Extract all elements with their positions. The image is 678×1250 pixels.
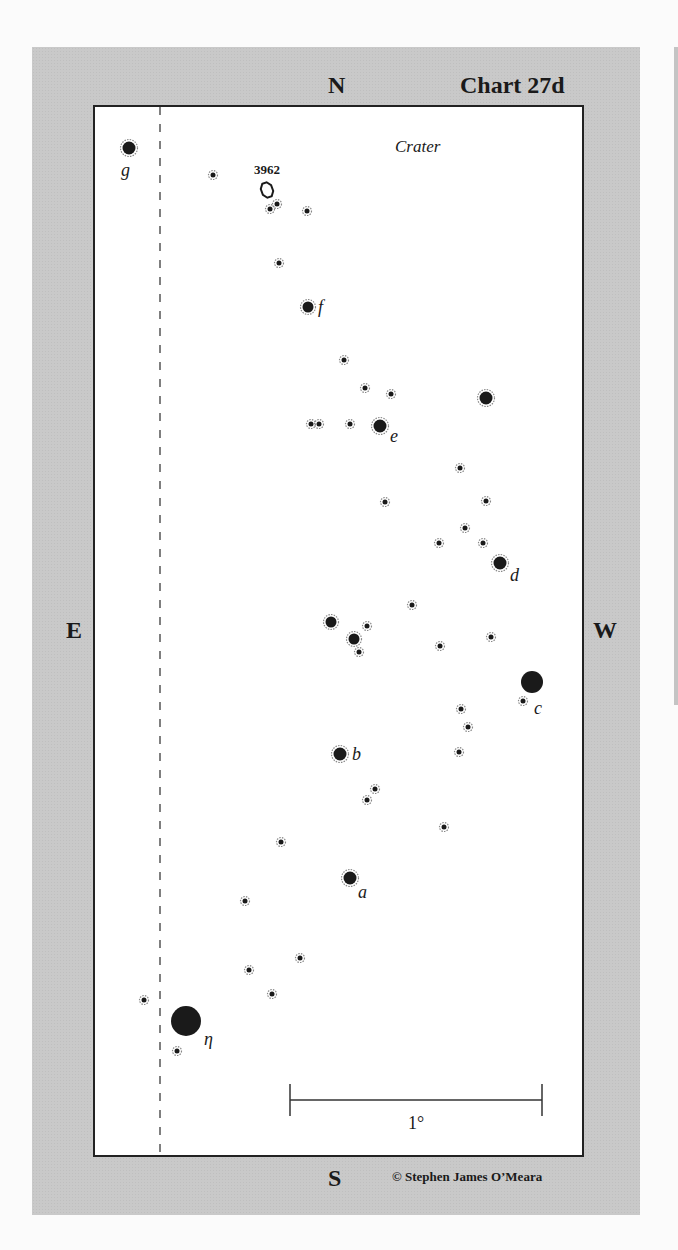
star-icon — [241, 897, 250, 906]
star-icon — [519, 697, 528, 706]
star-icon — [355, 648, 364, 657]
stars-layer — [121, 140, 544, 1056]
star-icon — [296, 954, 305, 963]
star-b-icon — [332, 746, 349, 763]
star-icon — [363, 796, 372, 805]
star-icon — [346, 420, 355, 429]
galaxy-icon — [259, 181, 274, 199]
star-g-icon — [121, 140, 138, 157]
star-label: η — [204, 1029, 213, 1049]
star-icon — [435, 539, 444, 548]
constellation-name: Crater — [395, 137, 441, 156]
star-icon — [440, 823, 449, 832]
star-label: g — [121, 160, 130, 180]
star-icon — [347, 632, 362, 647]
star-icon — [245, 966, 254, 975]
star-icon — [436, 642, 445, 651]
star-icon — [387, 390, 396, 399]
star-icon — [140, 996, 149, 1005]
star-label: b — [352, 744, 361, 764]
star-icon — [461, 524, 470, 533]
star-icon — [464, 723, 473, 732]
scale-bar-label: 1° — [408, 1113, 424, 1133]
star-icon — [381, 498, 390, 507]
star-e-icon — [372, 418, 389, 435]
star-field: gfedcbaη 3962 1° Crater — [0, 0, 678, 1250]
star-label: a — [358, 882, 367, 902]
star-label: e — [390, 426, 398, 446]
star-icon — [268, 990, 277, 999]
star-icon — [303, 207, 312, 216]
star-icon — [479, 539, 488, 548]
galaxy-layer: 3962 — [254, 162, 280, 199]
star-label: c — [534, 698, 542, 718]
star-icon — [275, 259, 284, 268]
scale-bar: 1° — [290, 1084, 542, 1133]
star-icon — [408, 601, 417, 610]
star-icon — [209, 171, 218, 180]
star-label: f — [318, 297, 326, 317]
star-icon — [340, 356, 349, 365]
star-icon — [482, 497, 491, 506]
galaxy-label: 3962 — [254, 162, 280, 177]
star-icon — [277, 838, 286, 847]
star-icon — [456, 464, 465, 473]
star-label: d — [510, 565, 520, 585]
star-icon — [457, 705, 466, 714]
star-f-icon — [301, 300, 316, 315]
star-icon — [478, 390, 495, 407]
star-c-icon — [521, 671, 543, 693]
star-icon — [371, 785, 380, 794]
star-icon — [363, 622, 372, 631]
star-a-icon — [342, 870, 359, 887]
star-icon — [455, 748, 464, 757]
star-η-icon — [171, 1006, 201, 1036]
star-icon — [324, 615, 339, 630]
star-icon — [487, 633, 496, 642]
star-icon — [173, 1047, 182, 1056]
star-d-icon — [492, 555, 509, 572]
star-labels-layer: gfedcbaη — [121, 160, 542, 1049]
star-icon — [361, 384, 370, 393]
